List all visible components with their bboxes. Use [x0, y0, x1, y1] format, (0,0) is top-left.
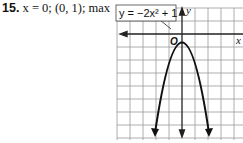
y-axis-label: y	[185, 4, 191, 16]
x-axis-label: x	[235, 34, 241, 46]
arrow-left	[151, 128, 159, 137]
axes	[120, 8, 243, 137]
parabola-graph: y = −2x² + 1 y x O	[0, 0, 243, 143]
arrow-right	[205, 128, 213, 137]
origin-label: O	[170, 36, 178, 47]
equation-label: y = −2x² + 1	[119, 7, 177, 19]
grid	[117, 8, 243, 140]
